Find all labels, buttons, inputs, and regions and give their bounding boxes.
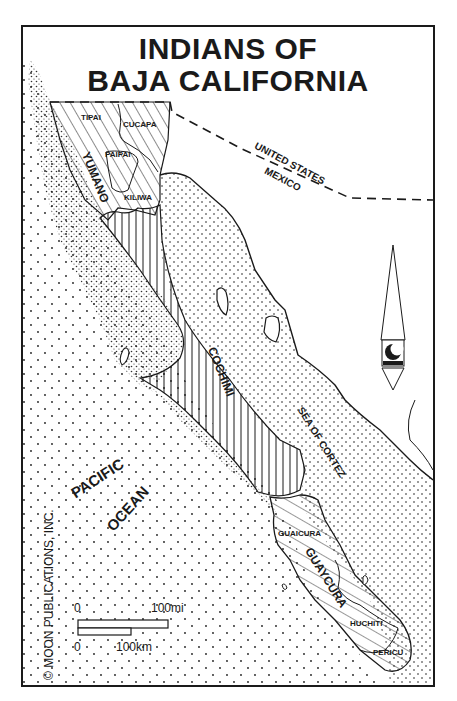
map-canvas	[0, 0, 457, 701]
label-kiliwa: KILIWA	[124, 193, 152, 202]
mainland-east-coast-lower	[408, 400, 433, 470]
scale-km-max: 100km	[116, 640, 152, 654]
scale-mi-max: 100mi	[151, 601, 184, 615]
scale-km-zero: 0	[74, 640, 81, 654]
label-guaicura: GUAICURA	[278, 529, 321, 538]
map-title-line-2: BAJA CALIFORNIA	[21, 65, 435, 97]
copyright-notice: © MOON PUBLICATIONS, INC.	[42, 509, 56, 680]
label-huchiti: HUCHITI	[350, 619, 382, 628]
scale-mi-zero: 0	[74, 601, 81, 615]
label-tipai: TIPAI	[81, 113, 101, 122]
map-title-line-1: INDIANS OF	[21, 33, 435, 65]
north-arrow-icon	[381, 245, 405, 390]
label-cucapa: CUCAPA	[123, 120, 157, 129]
label-pericu: PERICU	[373, 648, 403, 657]
label-paipai: PAIPAI	[105, 150, 130, 159]
